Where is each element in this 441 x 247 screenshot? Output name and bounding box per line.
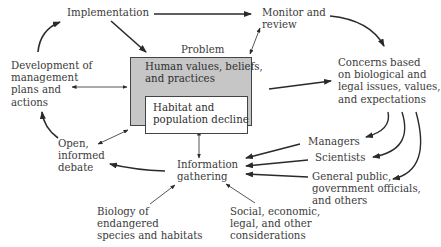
arrow-social-to-info xyxy=(226,184,255,203)
node-concerns: Concerns based on biological and legal i… xyxy=(338,57,441,106)
node-development-plans: Development of management plans and acti… xyxy=(11,60,92,109)
arrow-implementation-to-problem xyxy=(111,21,146,52)
arrow-biology-to-info xyxy=(150,185,175,204)
arrow-concerns-to-managers xyxy=(366,112,389,137)
arrow-problem-to-concerns xyxy=(269,81,331,89)
arrow-development-to-implementation xyxy=(38,22,60,52)
node-biology: Biology of endangered species and habita… xyxy=(97,206,203,243)
problem-label: Problem xyxy=(181,44,224,56)
arrow-concerns-to-public xyxy=(393,112,421,179)
arrow-public-to-info xyxy=(246,174,308,177)
node-managers: Managers xyxy=(308,136,360,148)
arrow-managers-to-info xyxy=(246,144,300,158)
arrow-monitor-to-concerns xyxy=(330,16,384,46)
node-scientists: Scientists xyxy=(315,152,365,164)
arrow-debate-to-development xyxy=(42,112,58,138)
arrow-info-to-debate xyxy=(110,164,165,171)
node-open-debate: Open, informed debate xyxy=(58,138,105,175)
node-social: Social, economic, legal, and other consi… xyxy=(230,206,320,243)
node-habitat-decline: Habitat and population decline xyxy=(153,102,249,126)
node-monitor-review: Monitor and review xyxy=(262,7,326,31)
node-human-values: Human values, beliefs, and practices xyxy=(145,61,263,85)
node-information-gathering: Information gathering xyxy=(177,159,238,183)
arrow-scientists-to-info xyxy=(246,160,308,166)
node-general-public: General public, government officials, an… xyxy=(312,171,421,208)
node-implementation: Implementation xyxy=(67,7,149,19)
